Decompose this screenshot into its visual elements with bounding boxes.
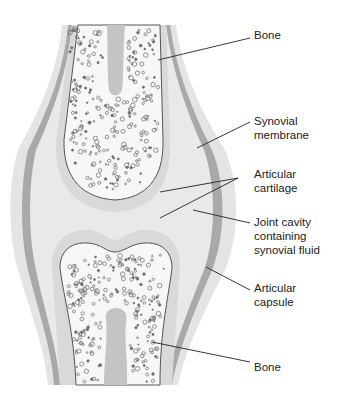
label-bone-bottom: Bone (254, 360, 281, 374)
label-text: Synovial (254, 114, 309, 128)
label-joint-cavity: Joint cavity containing synovial fluid (254, 215, 320, 257)
label-text: membrane (254, 128, 309, 142)
label-text: synovial fluid (254, 243, 320, 257)
label-text: cartilage (254, 181, 297, 195)
label-text: Bone (254, 28, 281, 42)
bottom-marrow-canal (104, 308, 127, 385)
label-text: Articular (254, 281, 296, 295)
label-text: Joint cavity (254, 215, 320, 229)
label-text: Articular (254, 167, 297, 181)
label-text: capsule (254, 295, 296, 309)
synovial-joint-diagram (0, 0, 337, 414)
label-bone-top: Bone (254, 28, 281, 42)
label-text: Bone (254, 360, 281, 374)
top-marrow-canal (107, 25, 125, 95)
label-synovial-membrane: Synovial membrane (254, 114, 309, 142)
label-articular-cartilage: Articular cartilage (254, 167, 297, 195)
label-text: containing (254, 229, 320, 243)
label-articular-capsule: Articular capsule (254, 281, 296, 309)
